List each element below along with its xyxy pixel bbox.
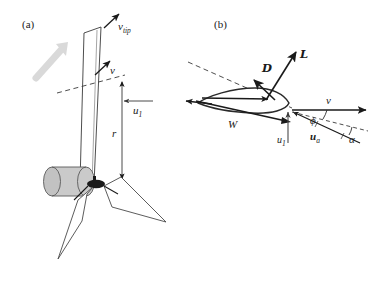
upper-surface-arrow bbox=[202, 98, 268, 99]
lift-label: L bbox=[299, 47, 308, 61]
diagram-canvas: (a) vtip v u1 r bbox=[0, 0, 375, 283]
u1-label-panel-b: u1 bbox=[277, 134, 286, 148]
v-tip-arrow bbox=[104, 14, 119, 28]
v-label-panel-a: v bbox=[110, 64, 115, 76]
panel-a-label: (a) bbox=[22, 18, 35, 31]
alpha-reference-dashed-line bbox=[292, 112, 368, 131]
nacelle-hub bbox=[44, 167, 95, 196]
u1-label-panel-a: u1 bbox=[133, 104, 142, 119]
v-label-panel-b: v bbox=[326, 94, 331, 106]
main-blade bbox=[80, 27, 101, 184]
phi-label: ϕ bbox=[310, 114, 316, 126]
radius-label: r bbox=[112, 127, 117, 139]
airfoil-cross-section bbox=[198, 88, 289, 113]
ua-label: ua bbox=[310, 130, 320, 145]
panel-b-label: (b) bbox=[214, 18, 227, 31]
panel-b-group: (b) D L W v ϕ α u1 ua bbox=[186, 18, 368, 148]
lower-right-blade bbox=[104, 177, 166, 222]
alpha-label: α bbox=[349, 133, 355, 145]
rotation-direction-arrow bbox=[36, 42, 68, 78]
phi-angle-arc bbox=[323, 110, 327, 119]
figure-container: (a) vtip v u1 r bbox=[0, 0, 375, 283]
panel-a-group: (a) vtip v u1 r bbox=[22, 14, 166, 259]
w-label: W bbox=[228, 118, 238, 130]
drag-label: D bbox=[261, 61, 272, 75]
w-vector-head bbox=[281, 117, 291, 124]
lift-vector bbox=[266, 52, 296, 100]
v-tip-label: vtip bbox=[118, 20, 131, 35]
